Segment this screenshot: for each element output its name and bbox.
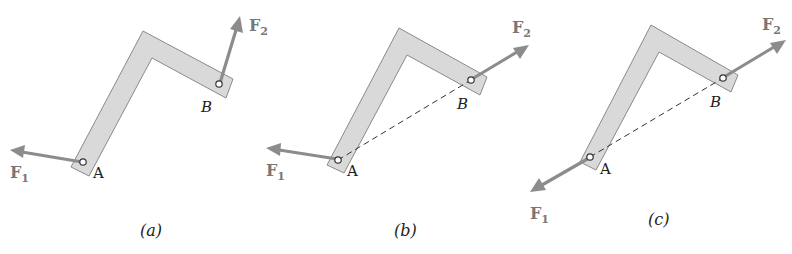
force-label-f2: F2 bbox=[512, 18, 531, 40]
pin-a bbox=[335, 157, 341, 163]
point-label-a: A bbox=[599, 160, 611, 178]
panel-a: F1 F2 A B (a) bbox=[10, 16, 268, 240]
point-label-a: A bbox=[92, 164, 104, 182]
force-arrow-f2 bbox=[220, 16, 243, 83]
panel-caption: (c) bbox=[648, 210, 669, 229]
force-arrow-f1 bbox=[266, 143, 337, 159]
two-force-member-figure: F1 F2 A B (a) F1 F2 A B (b) bbox=[0, 0, 792, 254]
force-arrow-f2 bbox=[472, 45, 529, 79]
force-label-f1: F1 bbox=[530, 204, 549, 226]
force-arrow-f1 bbox=[10, 145, 82, 162]
force-arrow-f2 bbox=[724, 40, 786, 77]
panel-caption: (b) bbox=[394, 221, 417, 240]
force-arrow-f1 bbox=[530, 158, 589, 192]
panel-b: F1 F2 A B (b) bbox=[266, 18, 531, 240]
point-label-a: A bbox=[346, 162, 358, 180]
pin-b bbox=[468, 77, 474, 83]
pin-b bbox=[216, 81, 222, 87]
force-label-f2: F2 bbox=[249, 16, 268, 38]
pin-a bbox=[587, 154, 593, 160]
point-label-b: B bbox=[200, 98, 212, 116]
point-label-b: B bbox=[709, 93, 721, 111]
panel-caption: (a) bbox=[140, 221, 162, 240]
force-label-f1: F1 bbox=[10, 163, 29, 185]
pin-b bbox=[720, 75, 726, 81]
pin-a bbox=[80, 159, 86, 165]
force-label-f1: F1 bbox=[266, 161, 285, 183]
point-label-b: B bbox=[456, 95, 468, 113]
panel-c: F1 F2 A B (c) bbox=[530, 15, 786, 229]
force-label-f2: F2 bbox=[762, 15, 781, 37]
